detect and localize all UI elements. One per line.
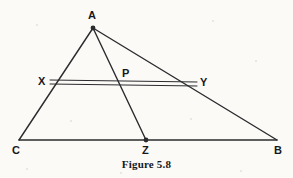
vertex-dot-a xyxy=(91,26,96,31)
point-label-a: A xyxy=(88,10,96,21)
scan-speck xyxy=(255,60,257,62)
point-label-p: P xyxy=(122,68,130,79)
geometry-figure: ABCXYPZ Figure 5.8 xyxy=(0,0,293,178)
segment-XY-upper xyxy=(50,80,197,82)
scan-speck xyxy=(70,120,72,122)
point-label-b: B xyxy=(274,145,282,156)
point-label-c: C xyxy=(12,145,20,156)
scan-speck xyxy=(190,118,192,120)
point-label-z: Z xyxy=(142,145,149,156)
segment-XY-lower xyxy=(50,84,197,86)
point-label-y: Y xyxy=(200,77,208,88)
scan-speck xyxy=(240,170,242,172)
side-AB xyxy=(93,28,277,140)
figure-caption: Figure 5.8 xyxy=(0,158,293,170)
segment-layer xyxy=(19,28,277,140)
scan-speck xyxy=(212,20,214,22)
scan-speck xyxy=(120,172,122,174)
vertex-dot-z xyxy=(144,138,149,143)
point-label-x: X xyxy=(38,76,46,87)
scan-speck xyxy=(36,24,38,26)
